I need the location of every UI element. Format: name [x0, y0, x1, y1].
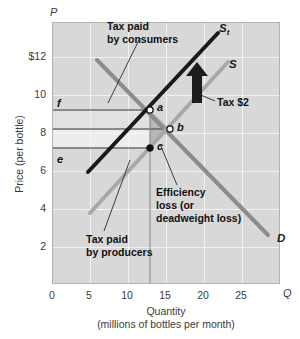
price-label-f: f	[57, 97, 61, 109]
annotation-tax-consumers-line1: Tax paid	[107, 20, 178, 33]
curve-label-st-main: S	[219, 22, 227, 34]
annotation-efficiency-loss-line2: loss (or	[156, 199, 241, 212]
curve-label-demand: D	[277, 232, 285, 244]
curve-label-supply-with-tax: St	[219, 22, 229, 37]
annotation-tax-producers-line2: by producers	[86, 246, 153, 259]
point-label-b: b	[177, 121, 184, 133]
supply-demand-tax-chart: $12 10 8 6 4 2 0 5 10 15 20 25 P Q Price…	[0, 0, 300, 339]
point-label-a: a	[157, 101, 163, 113]
annotation-efficiency-loss-line3: deadweight loss)	[156, 212, 241, 225]
point-b	[167, 126, 173, 132]
annotation-tax-producers-line1: Tax paid	[86, 233, 153, 246]
annotation-tax-consumers-line2: by consumers	[107, 33, 178, 46]
point-a	[147, 107, 153, 113]
annotation-tax-paid-consumers: Tax paid by consumers	[107, 20, 178, 46]
annotation-efficiency-loss: Efficiency loss (or deadweight loss)	[156, 186, 241, 225]
leader-tax-consumers	[108, 38, 140, 103]
annotation-tax-amount: Tax $2	[217, 96, 249, 109]
annotation-tax-paid-producers: Tax paid by producers	[86, 233, 153, 259]
chart-overlay	[0, 0, 300, 339]
point-c	[147, 145, 154, 152]
annotation-efficiency-loss-line1: Efficiency	[156, 186, 241, 199]
curve-label-supply: S	[229, 58, 237, 70]
annotation-tax-amount-line1: Tax $2	[217, 96, 249, 109]
price-label-e: e	[57, 153, 63, 165]
curve-label-st-sub: t	[227, 28, 230, 37]
point-label-c: c	[157, 140, 163, 152]
